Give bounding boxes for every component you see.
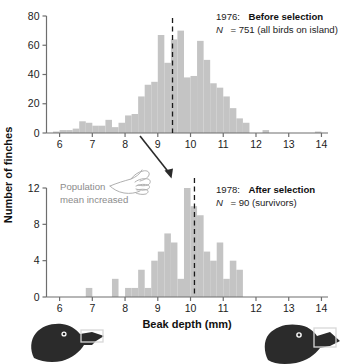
histogram-bar (243, 123, 250, 133)
y-tick-label: 12 (28, 182, 40, 194)
histogram-bar (138, 270, 145, 297)
histogram-bar (132, 288, 139, 297)
histogram-bar (158, 252, 165, 297)
histogram-bar (158, 35, 165, 133)
x-tick-label: 14 (316, 138, 328, 150)
histogram-bar (191, 76, 198, 133)
x-tick-label: 9 (155, 302, 161, 314)
figure-svg: Number of finches 020406080 678910111213… (0, 0, 348, 364)
finch-beak-depth-figure: Number of finches 020406080 678910111213… (0, 0, 348, 364)
histogram-bar (171, 243, 178, 298)
y-ticks-1976: 020406080 (28, 10, 47, 139)
histogram-bar (138, 96, 145, 133)
histogram-bar (125, 288, 132, 297)
histogram-bar (145, 288, 152, 297)
x-ticks-1978: 67891011121314 (57, 297, 328, 314)
mean-shift-annotation (110, 136, 173, 194)
histogram-bar (86, 123, 93, 133)
histogram-bar (223, 279, 230, 297)
histogram-bar (217, 88, 224, 133)
histogram-bar (191, 206, 198, 297)
x-tick-label: 14 (316, 302, 328, 314)
y-ticks-1978: 04812 (28, 182, 47, 303)
panel-1976-year: 1976: (216, 11, 240, 22)
histogram-bar (204, 252, 211, 297)
panel-1976-n-symbol: N (216, 24, 223, 35)
histogram-bar (112, 127, 119, 133)
histogram-bar (79, 121, 86, 133)
histogram-bar (164, 63, 171, 133)
histogram-bar (236, 118, 243, 133)
histogram-bar (197, 41, 204, 133)
histogram-bar (177, 31, 184, 133)
x-axis-label: Beak depth (mm) (142, 318, 232, 330)
callout-line-2: mean increased (60, 194, 128, 205)
panel-1978-n-symbol: N (216, 197, 223, 208)
y-tick-label: 0 (34, 127, 40, 139)
shift-arrow-head (165, 169, 174, 179)
y-tick-label: 40 (28, 68, 40, 80)
panel-1976-title: Before selection (248, 11, 323, 22)
panel-1978: 04812 67891011121314 Population mean inc… (28, 178, 328, 314)
histogram-bar (171, 39, 178, 133)
histogram-bar (184, 77, 191, 133)
panel-1978-title: After selection (248, 184, 315, 195)
x-tick-label: 9 (155, 138, 161, 150)
x-tick-label: 7 (89, 302, 95, 314)
histogram-bar (210, 83, 217, 133)
finch-large-beak-illustration (265, 324, 340, 364)
x-tick-label: 11 (218, 302, 229, 314)
x-tick-label: 6 (57, 138, 63, 150)
y-tick-label: 8 (34, 218, 40, 230)
finch-small-beak-illustration (31, 324, 104, 362)
histogram-bar (125, 115, 132, 133)
histogram-bar (177, 279, 184, 297)
x-tick-label: 12 (250, 138, 262, 150)
histogram-bar (92, 126, 99, 133)
histogram-bar (119, 123, 126, 133)
histogram-bar (86, 288, 93, 297)
x-tick-label: 11 (218, 138, 229, 150)
histogram-bars-1976 (53, 31, 321, 133)
histogram-bar (99, 126, 106, 133)
x-tick-label: 10 (185, 138, 197, 150)
histogram-bar (230, 108, 237, 133)
y-tick-label: 60 (28, 39, 40, 51)
histogram-bar (73, 129, 80, 133)
y-tick-label: 4 (34, 254, 40, 266)
histogram-bar (151, 261, 158, 297)
panel-1978-n-value: = 90 (survivors) (230, 197, 296, 208)
y-tick-label: 0 (34, 291, 40, 303)
histogram-bar (210, 261, 217, 297)
x-tick-label: 13 (283, 138, 295, 150)
panel-1978-title-group: 1978: After selection (216, 179, 315, 196)
histogram-bar (223, 96, 230, 133)
panel-1976-n-value: = 751 (all birds on island) (230, 24, 337, 35)
histogram-bar (132, 114, 139, 133)
callout-line-1: Population (60, 181, 105, 192)
y-tick-label: 80 (28, 10, 40, 22)
histogram-bar (230, 261, 237, 297)
histogram-bar (151, 82, 158, 133)
x-tick-label: 8 (122, 138, 128, 150)
panel-1976: 020406080 67891011121314 1976: Before se… (28, 6, 338, 150)
histogram-bar (184, 188, 191, 297)
histogram-bar (217, 243, 224, 298)
x-tick-label: 10 (185, 302, 197, 314)
x-tick-label: 8 (122, 302, 128, 314)
x-ticks-1976: 67891011121314 (57, 133, 328, 150)
panel-1978-year: 1978: (216, 184, 240, 195)
pointing-hand-icon (110, 170, 150, 194)
panel-1976-title-group: 1976: Before selection (216, 6, 323, 23)
x-tick-label: 6 (57, 302, 63, 314)
y-axis-label: Number of finches (2, 127, 14, 224)
histogram-bar (164, 233, 171, 297)
histogram-bar (112, 279, 119, 297)
histogram-bar (197, 215, 204, 297)
x-tick-label: 13 (283, 302, 295, 314)
histogram-bar (105, 120, 112, 133)
histogram-bar (204, 60, 211, 133)
x-tick-label: 7 (89, 138, 95, 150)
histogram-bar (236, 270, 243, 297)
histogram-bar (145, 85, 152, 133)
